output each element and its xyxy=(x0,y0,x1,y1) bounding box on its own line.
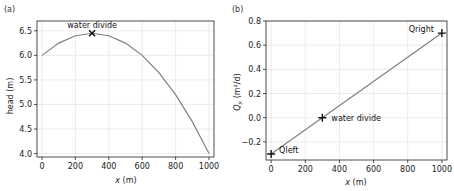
chart-a-xtick-label: 400 xyxy=(101,162,116,171)
chart-b-marker xyxy=(438,29,446,37)
chart-b-ytick-label: −0.2 xyxy=(242,138,261,147)
chart-b-xtick-label: 400 xyxy=(332,165,347,174)
chart-b-xtick-label: 800 xyxy=(400,165,415,174)
chart-a-ytick-label: 4.0 xyxy=(19,150,32,159)
chart-a-ytick-label: 4.5 xyxy=(19,125,32,134)
chart-a: 020040060080010004.04.55.05.56.06.5water… xyxy=(19,21,219,171)
chart-b-annotation: water divide xyxy=(331,114,381,123)
chart-a-xtick-label: 1000 xyxy=(199,162,219,171)
chart-b-ytick-label: 0.2 xyxy=(248,90,261,99)
chart-b-ytick-label: 0.0 xyxy=(248,114,261,123)
chart-b-ylabel: Qx (m²/d) xyxy=(233,73,243,110)
chart-a-ytick-label: 5.0 xyxy=(19,100,32,109)
chart-b-xtick-label: 200 xyxy=(298,165,313,174)
chart-b-marker xyxy=(267,150,275,158)
chart-b-xtick-label: 600 xyxy=(366,165,381,174)
figure: (a) 020040060080010004.04.55.05.56.06.5w… xyxy=(0,0,454,191)
chart-b-marker xyxy=(318,114,326,122)
panel-b-label: (b) xyxy=(232,5,243,14)
chart-a-xtick-label: 200 xyxy=(68,162,83,171)
chart-a-xlabel: x (m) xyxy=(114,176,136,185)
chart-a-xtick-label: 800 xyxy=(168,162,183,171)
panel-a-label: (a) xyxy=(4,5,15,14)
chart-b-xlabel: x (m) xyxy=(344,178,366,187)
chart-b-ytick-label: 0.8 xyxy=(248,17,261,26)
chart-a-ytick-label: 6.5 xyxy=(19,27,32,36)
chart-b-frame xyxy=(266,21,447,160)
chart-a-xtick-label: 600 xyxy=(135,162,150,171)
chart-b-annotation: Qright xyxy=(409,25,434,34)
chart-b-ytick-label: 0.6 xyxy=(248,41,261,50)
chart-a-ytick-label: 5.5 xyxy=(19,76,32,85)
chart-b-ytick-label: 0.4 xyxy=(248,65,261,74)
chart-a-annotation: water divide xyxy=(67,21,117,30)
chart-a-xtick-label: 0 xyxy=(39,162,44,171)
chart-a-ytick-label: 6.0 xyxy=(19,51,32,60)
chart-b: 02004006008001000−0.20.00.20.40.60.8Qlef… xyxy=(242,17,452,174)
chart-b-xtick-label: 1000 xyxy=(432,165,452,174)
chart-b-annotation: Qleft xyxy=(279,146,298,155)
chart-a-series-line xyxy=(42,33,209,153)
chart-a-ylabel: head (m) xyxy=(6,78,15,115)
chart-b-xtick-label: 0 xyxy=(269,165,274,174)
